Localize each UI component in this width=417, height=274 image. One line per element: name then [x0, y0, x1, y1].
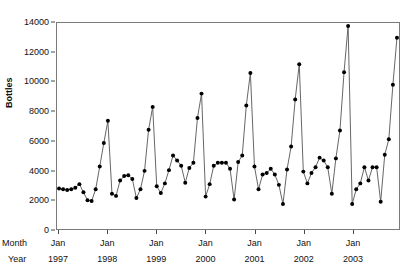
y-tick-mark: [51, 51, 55, 52]
data-point: [346, 24, 350, 28]
data-point: [338, 128, 342, 132]
x-axis-row-header-month: Month: [2, 238, 27, 248]
x-tick-label-month: Jan: [100, 238, 115, 248]
data-point: [297, 62, 301, 66]
x-tick-mark: [58, 230, 59, 234]
data-point: [110, 192, 114, 196]
data-point: [293, 98, 297, 102]
data-point: [118, 178, 122, 182]
y-tick-label: 14000: [3, 17, 49, 27]
data-point: [143, 169, 147, 173]
x-tick-label-month: Jan: [198, 238, 213, 248]
data-point: [102, 141, 106, 145]
x-tick-label-year: 2000: [195, 254, 215, 264]
data-point: [371, 165, 375, 169]
data-point: [57, 187, 61, 191]
y-tick-mark: [51, 22, 55, 23]
data-point: [224, 161, 228, 165]
data-point: [159, 191, 163, 195]
x-tick-mark: [205, 230, 206, 234]
y-tick-label: 10000: [3, 76, 49, 86]
data-point: [322, 159, 326, 163]
data-point: [73, 186, 77, 190]
data-point: [167, 168, 171, 172]
data-point: [350, 202, 354, 206]
x-tick-label-month: Jan: [346, 238, 361, 248]
data-point: [81, 190, 85, 194]
data-point: [151, 105, 155, 109]
data-point: [183, 181, 187, 185]
data-point: [305, 181, 309, 185]
data-point: [354, 187, 358, 191]
data-series-bottles: [57, 23, 399, 229]
y-tick-mark: [51, 230, 55, 231]
data-point: [147, 128, 151, 132]
data-point: [379, 200, 383, 204]
data-point: [326, 165, 330, 169]
data-point: [281, 202, 285, 206]
data-point: [61, 187, 65, 191]
data-point: [248, 71, 252, 75]
data-point: [90, 199, 94, 203]
data-point: [265, 171, 269, 175]
data-point: [163, 181, 167, 185]
series-line: [59, 26, 397, 204]
data-point: [98, 164, 102, 168]
data-point: [261, 173, 265, 177]
x-tick-mark: [156, 230, 157, 234]
data-point: [244, 103, 248, 107]
bottles-time-series-chart: Bottles 02000400060008000100001200014000…: [0, 0, 417, 274]
data-point: [69, 187, 73, 191]
data-point: [134, 196, 138, 200]
data-point: [387, 137, 391, 141]
data-point: [77, 182, 81, 186]
data-point: [187, 166, 191, 170]
data-point: [273, 173, 277, 177]
data-point: [86, 198, 90, 202]
data-point: [216, 161, 220, 165]
y-tick-label: 6000: [3, 136, 49, 146]
data-point: [362, 165, 366, 169]
data-point: [195, 116, 199, 120]
x-tick-label-year: 2003: [343, 254, 363, 264]
data-point: [301, 170, 305, 174]
data-point: [383, 153, 387, 157]
x-tick-label-year: 1998: [97, 254, 117, 264]
data-point: [318, 156, 322, 160]
y-tick-mark: [51, 81, 55, 82]
data-point: [126, 173, 130, 177]
data-point: [204, 195, 208, 199]
data-point: [155, 184, 159, 188]
data-point: [208, 182, 212, 186]
data-point: [114, 194, 118, 198]
data-point: [236, 160, 240, 164]
y-tick-label: 4000: [3, 166, 49, 176]
y-tick-label: 12000: [3, 47, 49, 57]
data-point: [269, 167, 273, 171]
data-point: [232, 198, 236, 202]
x-tick-label-year: 2001: [245, 254, 265, 264]
data-point: [395, 36, 399, 40]
x-tick-label-month: Jan: [296, 238, 311, 248]
data-point: [138, 187, 142, 191]
data-point: [240, 153, 244, 157]
data-point: [289, 145, 293, 149]
data-point: [65, 188, 69, 192]
x-tick-mark: [304, 230, 305, 234]
data-point: [220, 161, 224, 165]
y-tick-mark: [51, 111, 55, 112]
data-point: [179, 164, 183, 168]
x-tick-label-year: 1997: [48, 254, 68, 264]
y-tick-mark: [51, 140, 55, 141]
x-tick-mark: [353, 230, 354, 234]
data-point: [314, 165, 318, 169]
y-tick-mark: [51, 170, 55, 171]
y-tick-label: 0: [3, 225, 49, 235]
x-tick-label-month: Jan: [51, 238, 66, 248]
x-tick-label-month: Jan: [149, 238, 164, 248]
data-point: [106, 119, 110, 123]
plot-area: [56, 22, 400, 230]
x-tick-mark: [107, 230, 108, 234]
data-point: [277, 183, 281, 187]
data-point: [228, 167, 232, 171]
